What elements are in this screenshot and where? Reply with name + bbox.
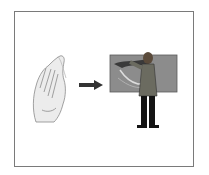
arrow-right-icon [79,80,103,90]
hand-sign-icon [28,52,70,126]
person-at-board-icon [108,50,180,132]
